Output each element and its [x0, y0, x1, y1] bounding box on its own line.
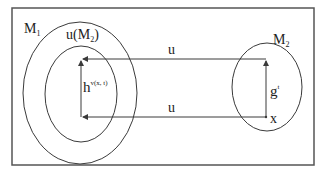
diagram-canvas: M1 u(M2) M2 u u hv(x, t) gt x — [0, 0, 325, 177]
set-m2-ellipse — [232, 43, 302, 131]
label-h: hv(x, t) — [83, 79, 108, 95]
point-x-dot — [265, 116, 267, 118]
label-x: x — [270, 111, 277, 126]
label-m2: M2 — [273, 32, 289, 49]
label-u-m2: u(M2) — [66, 27, 99, 44]
set-m1-ellipse — [23, 22, 137, 164]
label-m1: M1 — [24, 21, 40, 38]
label-bottom-u: u — [168, 100, 175, 115]
label-top-u: u — [168, 42, 175, 57]
label-g: gt — [270, 83, 280, 99]
outer-frame — [12, 8, 314, 165]
